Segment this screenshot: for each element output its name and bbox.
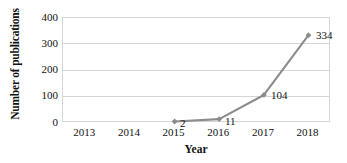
x-axis-tick-labels: 2013 2014 2015 2016 2017 2018 — [62, 126, 330, 140]
y-axis-title: Number of publications — [9, 5, 21, 123]
y-tick-label-300: 300 — [26, 38, 58, 49]
y-tick-label-200: 200 — [26, 64, 58, 75]
point-label-2017: 104 — [271, 90, 288, 101]
marker-2015 — [172, 119, 178, 125]
x-tick-label-2015: 2015 — [151, 126, 197, 138]
plot-area: 2 11 104 334 — [62, 17, 330, 122]
x-tick-label-2018: 2018 — [285, 126, 331, 138]
y-axis-tick-labels: 400 300 200 100 0 — [26, 0, 58, 163]
publications-per-year-line-chart: Number of publications 400 300 200 100 0… — [0, 0, 347, 163]
point-label-2018: 334 — [316, 30, 333, 41]
series-line — [175, 35, 309, 121]
x-tick-label-2016: 2016 — [195, 126, 241, 138]
x-tick-label-2014: 2014 — [106, 126, 152, 138]
x-tick-label-2017: 2017 — [240, 126, 286, 138]
y-tick-label-0: 0 — [26, 117, 58, 128]
series-plot — [63, 18, 331, 123]
x-axis-title: Year — [62, 143, 330, 155]
y-tick-label-100: 100 — [26, 90, 58, 101]
series-markers — [172, 32, 312, 124]
x-tick-label-2013: 2013 — [61, 126, 107, 138]
y-tick-label-400: 400 — [26, 12, 58, 23]
